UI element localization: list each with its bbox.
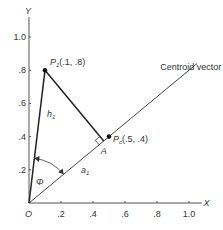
h1-perpendicular-line (45, 70, 104, 141)
a1-label: a1 (81, 165, 89, 176)
x-tick-label: .2 (57, 209, 65, 219)
labels: P1(.1, .8) Pc(.5, .4) Centroid vector A … (36, 57, 221, 187)
origin-label: O (25, 209, 32, 219)
x-tick-label: 1.0 (183, 209, 196, 219)
x-tick-label: .4 (89, 209, 97, 219)
axes: X Y O (25, 6, 210, 219)
y-tick-label: .2 (18, 165, 26, 175)
y-tick-label: .4 (18, 132, 26, 142)
centroid-diagram: X Y O .2.4.6.81.0.2.4.6.81.0 P1(.1, .8) … (0, 0, 223, 230)
p1-label: P1(.1, .8) (50, 57, 85, 68)
centroid-vector-label: Centroid vector (160, 62, 221, 72)
y-tick-label: .8 (18, 65, 26, 75)
h1-label: h1 (47, 109, 55, 120)
x-axis-label: X (202, 198, 210, 208)
x-tick-label: .8 (153, 209, 161, 219)
phi-label: Φ (36, 177, 44, 187)
right-angle-marker (95, 136, 100, 144)
pc-point (107, 134, 112, 139)
y-axis-label: Y (25, 6, 32, 16)
p1-point (43, 68, 48, 73)
pc-label: Pc(.5, .4) (113, 134, 148, 145)
y-tick-label: 1.0 (13, 32, 26, 42)
ticks: .2.4.6.81.0.2.4.6.81.0 (13, 32, 195, 219)
x-tick-label: .6 (121, 209, 129, 219)
foot-point-label: A (100, 146, 107, 156)
y-tick-label: .6 (18, 98, 26, 108)
